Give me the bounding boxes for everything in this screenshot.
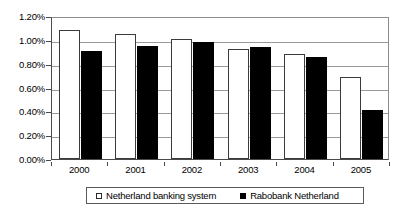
x-axis-tick-label: 2000 (69, 164, 89, 175)
x-axis-tick-label: 2004 (294, 164, 314, 175)
x-axis-tick-label: 2003 (238, 164, 258, 175)
plot-area (51, 17, 389, 160)
bar-2000-series-1[interactable] (81, 51, 102, 159)
x-axis-tick-mark (51, 162, 52, 166)
y-axis: 0.00%0.20%0.40%0.60%0.80%1.00%1.20% (0, 17, 45, 160)
bar-2004-series-0[interactable] (284, 54, 305, 159)
y-axis-tick-mark (46, 160, 51, 161)
legend-swatch-white-icon (96, 193, 102, 199)
x-axis-tick-label: 2005 (351, 164, 371, 175)
bar-group-2003 (228, 18, 271, 159)
bar-2005-series-1[interactable] (362, 110, 383, 159)
x-axis-tick-mark (107, 162, 108, 166)
x-axis-tick-mark (164, 162, 165, 166)
bar-2001-series-1[interactable] (137, 46, 158, 159)
x-axis-tick-label: 2001 (125, 164, 145, 175)
bar-group-2001 (115, 18, 158, 159)
legend-item-netherland-banking-system[interactable]: Netherland banking system (96, 190, 216, 201)
bar-2003-series-0[interactable] (228, 49, 249, 159)
bar-group-2000 (59, 18, 102, 159)
bar-2002-series-0[interactable] (171, 39, 192, 159)
x-axis-tick-mark (333, 162, 334, 166)
bar-2001-series-0[interactable] (115, 34, 136, 159)
legend-item-rabobank-netherland[interactable]: Rabobank Netherland (240, 190, 339, 201)
bar-2000-series-0[interactable] (59, 30, 80, 159)
legend-label: Rabobank Netherland (250, 190, 339, 201)
bar-group-2005 (340, 18, 383, 159)
gridline (52, 137, 388, 138)
bar-group-2002 (171, 18, 214, 159)
bar-chart: 0.00%0.20%0.40%0.60%0.80%1.00%1.20% 2000… (0, 0, 409, 218)
y-axis-tick-label: 0.00% (19, 155, 45, 165)
legend-swatch-black-icon (240, 193, 246, 199)
bar-2004-series-1[interactable] (306, 57, 327, 159)
gridline (52, 66, 388, 67)
legend-label: Netherland banking system (106, 190, 216, 201)
bar-2003-series-1[interactable] (250, 47, 271, 159)
chart-legend: Netherland banking system Rabobank Nethe… (86, 187, 364, 204)
gridline (52, 113, 388, 114)
x-axis-tick-mark (276, 162, 277, 166)
gridline (52, 90, 388, 91)
bar-2002-series-1[interactable] (193, 42, 214, 159)
y-axis-tick-label: 0.60% (19, 84, 45, 94)
bar-2005-series-0[interactable] (340, 77, 361, 159)
x-axis-tick-label: 2002 (182, 164, 202, 175)
y-axis-tick-label: 0.80% (19, 60, 45, 70)
y-axis-tick-label: 0.40% (19, 107, 45, 117)
y-axis-tick-label: 1.00% (19, 36, 45, 46)
y-axis-tick-label: 1.20% (19, 12, 45, 22)
y-axis-tick-label: 0.20% (19, 131, 45, 141)
x-axis-tick-mark (220, 162, 221, 166)
bar-group-2004 (284, 18, 327, 159)
gridline (52, 42, 388, 43)
x-axis-tick-mark (389, 162, 390, 166)
x-axis: 200020012002200320042005 (51, 162, 389, 178)
